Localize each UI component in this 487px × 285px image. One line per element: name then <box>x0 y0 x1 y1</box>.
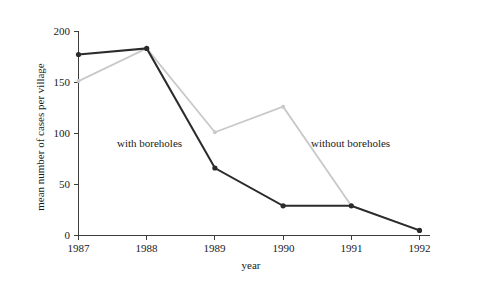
x-tick-label-1991: 1991 <box>341 242 363 254</box>
y-tick-label-0: 0 <box>65 229 71 241</box>
data-point <box>76 52 81 57</box>
data-point <box>77 79 81 83</box>
data-point <box>417 228 422 233</box>
annotation-with-boreholes: with boreholes <box>117 137 182 149</box>
y-axis-title: mean number of cases per village <box>34 63 46 211</box>
y-tick-label-100: 100 <box>54 127 71 139</box>
annotation-without-boreholes: without boreholes <box>311 137 390 149</box>
data-point <box>144 46 149 51</box>
data-point <box>212 165 217 170</box>
x-tick-label-1987: 1987 <box>68 242 91 254</box>
x-tick-label-1990: 1990 <box>273 242 296 254</box>
y-tick-label-150: 150 <box>54 76 71 88</box>
chart-svg: 200 150 100 50 0 1987 1988 1989 1990 199… <box>0 0 487 285</box>
data-point <box>213 130 217 134</box>
x-tick-label-1988: 1988 <box>136 242 159 254</box>
y-tick-label-50: 50 <box>59 178 71 190</box>
x-tick-label-1989: 1989 <box>204 242 227 254</box>
y-tick-label-200: 200 <box>54 25 71 37</box>
line-chart-figure: 200 150 100 50 0 1987 1988 1989 1990 199… <box>0 0 487 285</box>
data-point <box>281 203 286 208</box>
data-point <box>281 105 285 109</box>
x-tick-label-1992: 1992 <box>409 242 431 254</box>
data-point <box>349 203 354 208</box>
x-axis-title: year <box>242 259 261 271</box>
